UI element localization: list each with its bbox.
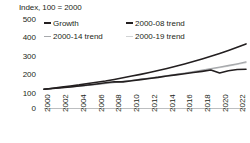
x-axis-tick-2018: 2018 (204, 94, 212, 112)
legend-label-2000-19-trend: 2000-19 trend (135, 33, 185, 41)
x-axis-tick-2016: 2016 (186, 94, 194, 112)
series-line-2000-08-trend (44, 44, 246, 89)
x-axis-tick-2002: 2002 (62, 94, 70, 112)
x-axis-baseline (44, 108, 246, 109)
x-axis-tick-2010: 2010 (133, 94, 141, 112)
legend-label-2000-08-trend: 2000-08 trend (135, 20, 185, 28)
legend-label-2000-14-trend: 2000-14 trend (53, 33, 103, 41)
legend-swatch-2000-08-trend (126, 22, 133, 24)
y-axis-tick-200: 200 (14, 71, 36, 79)
x-axis-tick-2006: 2006 (98, 94, 106, 112)
x-axis-tick-2004: 2004 (80, 94, 88, 112)
y-axis-tick-300: 300 (14, 53, 36, 61)
plot-area (44, 14, 246, 108)
y-axis-tick-100: 100 (14, 90, 36, 98)
legend-swatch-2000-19-trend (126, 36, 133, 38)
x-axis-tick-2022: 2022 (239, 94, 247, 112)
legend-item-2000-14-trend[interactable]: 2000-14 trend (44, 33, 103, 41)
legend-item-growth[interactable]: Growth (44, 20, 79, 28)
legend-swatch-2000-14-trend (44, 36, 51, 38)
y-axis-tick-500: 500 (14, 16, 36, 24)
x-axis-tick-2014: 2014 (169, 94, 177, 112)
legend-label-growth: Growth (53, 20, 79, 28)
chart-axis-title: Index, 100 = 2000 (19, 3, 82, 12)
series-line-growth (44, 69, 246, 89)
series-svg (44, 14, 246, 108)
x-axis-tick-2012: 2012 (151, 94, 159, 112)
y-axis-tick-400: 400 (14, 34, 36, 42)
legend-item-2000-08-trend[interactable]: 2000-08 trend (126, 20, 185, 28)
x-axis-tick-2008: 2008 (115, 94, 123, 112)
legend-item-2000-19-trend[interactable]: 2000-19 trend (126, 33, 185, 41)
x-axis-tick-2020: 2020 (222, 94, 230, 112)
legend-swatch-growth (44, 22, 51, 24)
x-axis-tick-2000: 2000 (44, 94, 52, 112)
y-axis-tick-0: 0 (14, 105, 36, 113)
chart-container: Index, 100 = 2000 500 400 300 200 100 0 … (0, 0, 250, 143)
